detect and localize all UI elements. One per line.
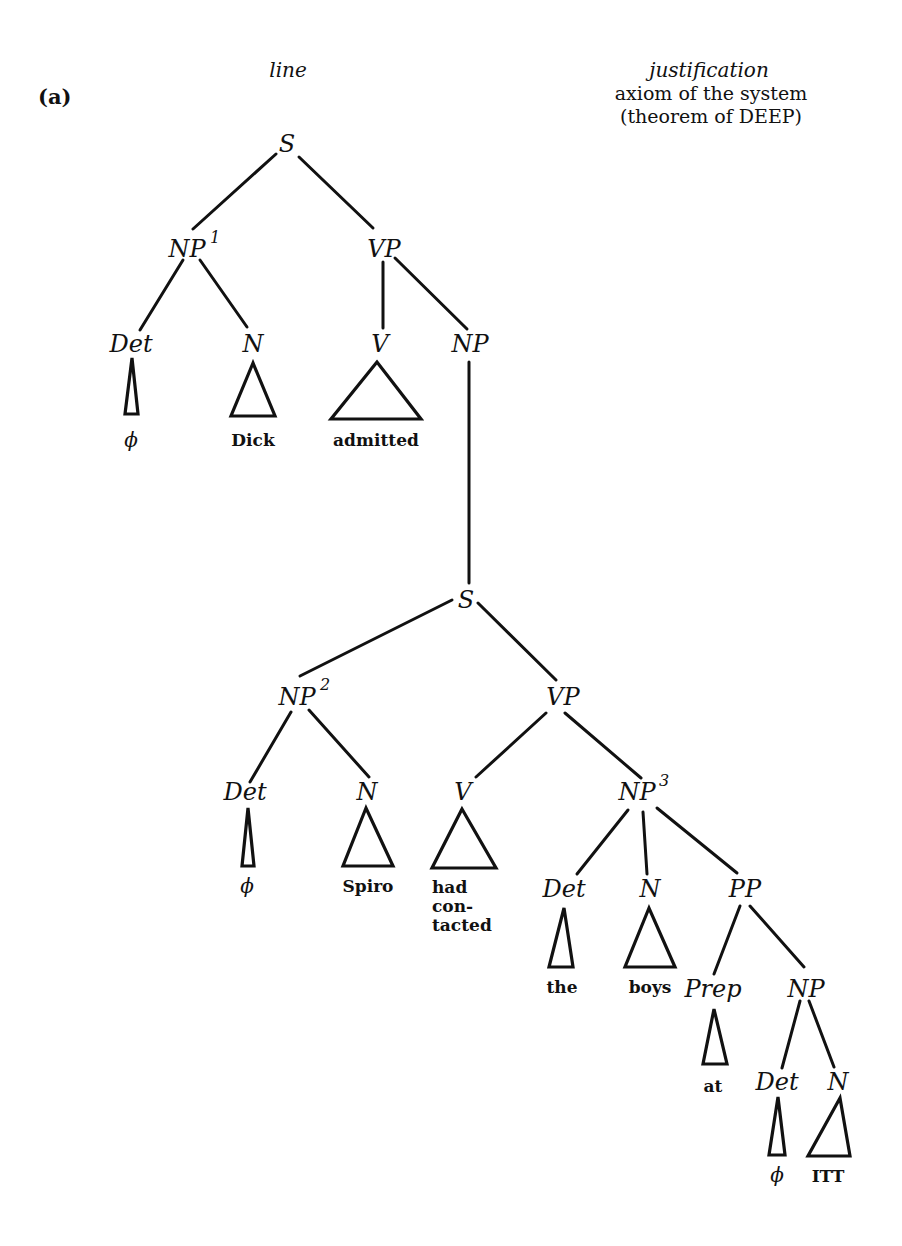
node-v2: V [454, 778, 474, 806]
node-v1: V [371, 330, 391, 358]
leaf-prep-at: at [704, 1076, 723, 1096]
triangle-n1 [231, 363, 275, 416]
triangle-det1 [125, 358, 138, 414]
node-det1: Det [108, 330, 152, 358]
leaf-det1-null: ϕ [124, 428, 138, 452]
node-np1: NP [167, 235, 206, 263]
edge-np3-det3 [577, 810, 628, 874]
node-n3: N [639, 875, 662, 903]
node-det4: Det [754, 1068, 798, 1096]
leaf-v1-admitted: admitted [333, 430, 419, 450]
triangle-det3 [549, 908, 573, 967]
leaf-v2-line-3: tacted [432, 915, 492, 935]
node-np3-superscript: 3 [659, 771, 669, 790]
node-np4: NP [786, 975, 825, 1003]
edge-np2-n2 [309, 710, 369, 777]
node-vp1: VP [367, 235, 401, 263]
leaf-n1-dick: Dick [231, 430, 276, 450]
triangle-n4 [808, 1098, 850, 1156]
edge-np3-n3 [643, 812, 647, 874]
leaf-n3-boys: boys [629, 977, 672, 997]
triangle-v2 [432, 809, 496, 868]
edge-pp-prep [714, 906, 740, 974]
node-np2: NP [277, 683, 316, 711]
edge-s-vp1 [299, 157, 373, 228]
edge-np3-pp [657, 808, 737, 873]
node-vp2: VP [546, 683, 580, 711]
triangle-n3 [625, 908, 675, 967]
edge-np4-det4 [782, 1001, 800, 1068]
edge-np2-det2 [250, 712, 291, 782]
node-np-object: NP [450, 330, 489, 358]
node-n2: N [356, 778, 379, 806]
edge-np1-det1 [140, 260, 183, 330]
leaf-n4-itt: ITT [812, 1166, 845, 1186]
leaf-v2-line-2: con- [432, 896, 473, 916]
leaf-det4-null: ϕ [770, 1163, 784, 1187]
edge-s-np1 [193, 154, 276, 229]
edge-np1-n1 [200, 260, 247, 327]
edge-np4-n4 [809, 1001, 834, 1067]
node-s-embedded: S [458, 586, 474, 614]
triangle-n2 [343, 808, 393, 866]
triangle-det2 [242, 808, 254, 866]
tree-leaf-labels: ϕ Dick admitted ϕ Spiro had con- tacted … [124, 428, 844, 1187]
node-np2-superscript: 2 [319, 675, 330, 694]
triangle-v1 [331, 362, 421, 419]
triangle-prep [703, 1009, 727, 1064]
edge-vp1-np [395, 258, 467, 329]
node-np1-superscript: 1 [210, 228, 220, 247]
leaf-n2-spiro: Spiro [343, 876, 394, 896]
node-np3: NP [617, 778, 656, 806]
node-prep: Prep [683, 975, 741, 1003]
node-det3: Det [541, 875, 585, 903]
node-n4: N [827, 1068, 850, 1096]
edge-s2-np2 [300, 600, 452, 676]
syntax-tree: S NP 1 VP Det N V NP S NP 2 VP Det N V N… [0, 0, 902, 1246]
edge-s2-vp2 [478, 603, 556, 680]
leaf-v2-line-1: had [432, 877, 467, 897]
node-det2: Det [222, 778, 266, 806]
edge-vp2-np3 [565, 713, 641, 778]
node-s-root: S [279, 130, 295, 158]
node-n1: N [242, 330, 265, 358]
leaf-det2-null: ϕ [240, 874, 254, 898]
node-pp: PP [728, 875, 762, 903]
tree-node-labels: S NP 1 VP Det N V NP S NP 2 VP Det N V N… [108, 130, 849, 1096]
leaf-det3-the: the [546, 977, 577, 997]
edge-pp-np4 [750, 906, 804, 967]
triangle-det4 [769, 1097, 785, 1155]
edge-vp2-v2 [476, 713, 546, 777]
tree-triangles [125, 358, 850, 1156]
